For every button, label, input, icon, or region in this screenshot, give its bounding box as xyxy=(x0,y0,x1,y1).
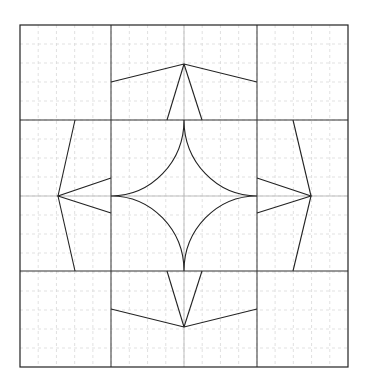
top-kite-leg xyxy=(167,64,184,120)
top-kite-leg xyxy=(184,64,202,120)
right-kite-leg xyxy=(293,196,311,271)
center-guides xyxy=(20,25,348,367)
bottom-kite-leg xyxy=(167,271,184,327)
left-kite-leg xyxy=(58,120,75,196)
quilt-diagram xyxy=(0,0,369,390)
diagram-svg xyxy=(0,0,369,390)
left-kite-leg xyxy=(58,196,75,271)
bottom-kite-leg xyxy=(184,271,202,327)
